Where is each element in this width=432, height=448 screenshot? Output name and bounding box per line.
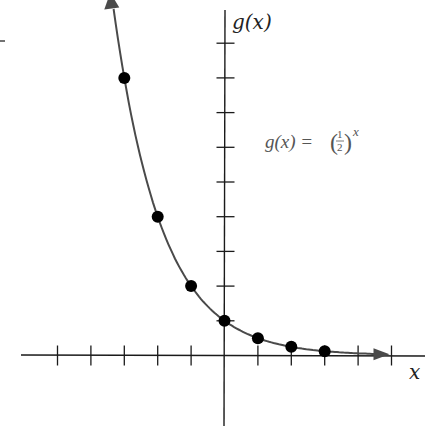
equation-lhs: g(x) = — [265, 131, 313, 153]
y-axis-label: g(x) — [232, 10, 272, 34]
exponential-graph: g(x) x g(x) = ( 1 2 ) x — [0, 0, 432, 448]
y-axis — [224, 10, 225, 426]
function-curve — [114, 9, 377, 354]
fraction-numerator: 1 — [337, 128, 343, 140]
data-point — [118, 72, 130, 84]
paren-close: ) — [344, 129, 352, 155]
equation-annotation: g(x) = ( 1 2 ) x — [265, 124, 359, 155]
data-point — [319, 345, 331, 357]
data-point — [185, 280, 197, 292]
arrow-up-icon — [104, 0, 119, 10]
x-axis — [21, 355, 425, 356]
fraction-denominator: 2 — [337, 141, 343, 153]
data-point — [285, 341, 297, 353]
axes — [21, 10, 425, 426]
data-point — [252, 332, 264, 344]
data-point — [219, 315, 231, 327]
equation-exponent: x — [352, 124, 359, 139]
x-axis-label: x — [409, 360, 420, 384]
data-point — [152, 211, 164, 223]
arrow-right-icon — [373, 348, 389, 360]
